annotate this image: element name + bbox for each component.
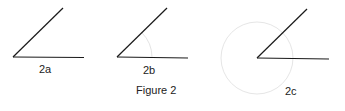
panel-2a	[13, 8, 84, 58]
panel-label-2a: 2a	[39, 63, 51, 75]
panel-label-2b: 2b	[143, 64, 155, 76]
figure-caption: Figure 2	[136, 84, 176, 96]
angle-base	[13, 57, 84, 58]
panel-2c	[221, 9, 329, 94]
angle-ray	[13, 8, 63, 57]
angle-base	[257, 58, 329, 59]
angle-base	[117, 57, 188, 58]
angle-ray	[257, 9, 307, 58]
panel-2b	[117, 8, 188, 58]
angle-arc	[142, 33, 152, 58]
angle-ray	[117, 8, 167, 57]
panel-label-2c: 2c	[285, 85, 297, 97]
